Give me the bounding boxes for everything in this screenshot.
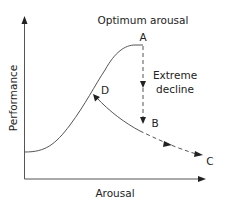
decline-arrow-mid-icon [140,81,146,88]
continued-decline-arrow-mid-icon [163,141,172,147]
performance-curve [25,45,143,152]
continued-decline-line [140,131,200,155]
y-axis-arrow-icon [22,16,28,24]
point-d-label: D [101,84,109,96]
annotation-line2: decline [156,83,194,95]
arousal-performance-diagram: Optimum arousal A Extreme decline D B C … [0,0,229,205]
decline-arrow-end-icon [140,117,146,124]
recovery-curve [96,97,140,131]
annotation-line1: Extreme [153,69,197,81]
x-axis [25,176,207,182]
point-a-label: A [139,31,147,43]
x-axis-arrow-icon [198,176,206,182]
continued-decline-arrow-end-icon [194,151,203,157]
y-axis-label: Performance [7,65,19,132]
y-axis [22,16,28,179]
x-axis-label: Arousal [95,187,134,199]
point-b-label: B [151,117,158,129]
title-label: Optimum arousal [98,14,189,26]
point-c-label: C [206,155,213,167]
